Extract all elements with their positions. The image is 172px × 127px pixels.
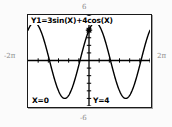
calculator-screenshot: 6 -6 -2π 2π Y1=3sin(X)+4cos(X) X=0 Y=4 bbox=[0, 0, 172, 127]
axis-label-xmin: -2π bbox=[4, 53, 15, 60]
calculator-display[interactable]: Y1=3sin(X)+4cos(X) X=0 Y=4 bbox=[27, 14, 152, 108]
equation-label: Y1=3sin(X)+4cos(X) bbox=[30, 16, 114, 25]
axis-label-xmax: 2π bbox=[157, 53, 166, 60]
trace-x-readout: X=0 bbox=[31, 96, 50, 105]
trace-cursor-icon bbox=[86, 27, 92, 33]
axis-label-ymax: 6 bbox=[82, 4, 86, 11]
axis-label-ymin: -6 bbox=[80, 115, 87, 122]
function-plot bbox=[28, 15, 150, 106]
trace-y-readout: Y=4 bbox=[92, 96, 110, 105]
